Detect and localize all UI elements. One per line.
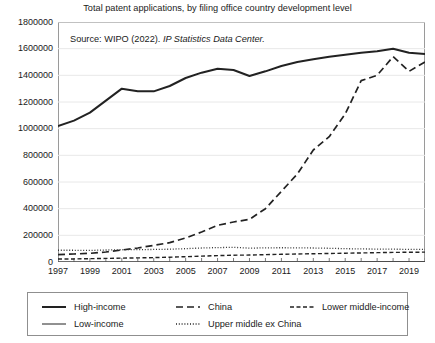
x-axis-tick-label: 2005 bbox=[176, 267, 196, 276]
legend-line-swatch bbox=[41, 301, 67, 313]
chart-legend: High-incomeChinaLower middle-incomeLow-i… bbox=[27, 292, 408, 336]
y-axis-tick-label: 1600000 bbox=[18, 44, 53, 53]
legend-item-high-income[interactable]: High-income bbox=[41, 300, 126, 314]
chart-title: Total patent applications, by filing off… bbox=[0, 2, 435, 14]
x-axis-tick-label: 2017 bbox=[367, 267, 387, 276]
x-axis-tick-label: 2011 bbox=[272, 267, 291, 276]
x-axis-tick-label: 2015 bbox=[335, 267, 355, 276]
y-axis-tick-label: 1200000 bbox=[18, 98, 53, 107]
legend-line-swatch bbox=[41, 318, 67, 330]
y-axis-tick-label: 200000 bbox=[23, 231, 53, 240]
legend-item-low-income[interactable]: Low-income bbox=[41, 317, 124, 331]
plot-area bbox=[58, 22, 425, 262]
series-line-lower-middle-income bbox=[58, 252, 425, 259]
y-axis-tick-labels: 0200000400000600000800000100000012000001… bbox=[0, 22, 53, 262]
x-axis-tick-labels: 1997199920012003200520072009201120132015… bbox=[58, 267, 425, 281]
x-axis-tick-label: 2001 bbox=[112, 267, 132, 276]
series-line-upper-middle-ex-china bbox=[58, 247, 425, 250]
chart-figure: Total patent applications, by filing off… bbox=[0, 0, 435, 343]
legend-line-swatch bbox=[175, 318, 201, 330]
x-axis-tick-label: 2007 bbox=[208, 267, 228, 276]
legend-item-label: Upper middle ex China bbox=[208, 318, 301, 330]
source-note: Source: WIPO (2022). IP Statistics Data … bbox=[70, 33, 265, 45]
legend-item-lower-middle-income[interactable]: Lower middle-income bbox=[289, 300, 409, 314]
legend-item-upper-middle-ex-china[interactable]: Upper middle ex China bbox=[175, 317, 301, 331]
x-axis-tick-label: 1997 bbox=[48, 267, 68, 276]
legend-item-china[interactable]: China bbox=[175, 300, 232, 314]
x-axis-tick-label: 2009 bbox=[239, 267, 259, 276]
plot-series-canvas bbox=[58, 22, 425, 262]
x-axis-tick-label: 1999 bbox=[80, 267, 100, 276]
legend-item-label: Low-income bbox=[74, 318, 124, 330]
x-axis-tick-label: 2003 bbox=[144, 267, 164, 276]
x-axis-tick-label: 2013 bbox=[303, 267, 323, 276]
legend-line-swatch bbox=[175, 301, 201, 313]
legend-item-label: High-income bbox=[74, 301, 126, 313]
legend-item-label: Lower middle-income bbox=[322, 301, 409, 313]
source-note-plain: Source: WIPO (2022). bbox=[70, 34, 163, 44]
source-note-italic: IP Statistics Data Center. bbox=[163, 34, 265, 44]
y-axis-tick-label: 800000 bbox=[23, 151, 53, 160]
y-axis-tick-label: 400000 bbox=[23, 204, 53, 213]
legend-line-swatch bbox=[289, 301, 315, 313]
series-line-high-income bbox=[58, 49, 425, 126]
y-axis-tick-label: 1400000 bbox=[18, 71, 53, 80]
y-axis-tick-label: 1800000 bbox=[18, 18, 53, 27]
legend-item-label: China bbox=[208, 301, 232, 313]
y-axis-tick-label: 1000000 bbox=[18, 124, 53, 133]
y-axis-tick-label: 600000 bbox=[23, 178, 53, 187]
x-axis-tick-label: 2019 bbox=[399, 267, 419, 276]
